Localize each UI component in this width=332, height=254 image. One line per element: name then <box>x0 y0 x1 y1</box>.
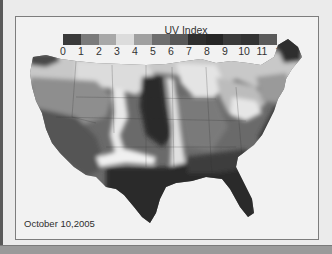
uv-index-figure: UV Index 0 1 2 3 4 5 6 7 8 9 10 11 12 <box>15 16 319 240</box>
map-date-label: October 10,2005 <box>24 218 95 229</box>
us-uv-map <box>16 17 320 241</box>
page-left-edge <box>0 0 3 245</box>
page-bottom-divider <box>0 245 332 254</box>
